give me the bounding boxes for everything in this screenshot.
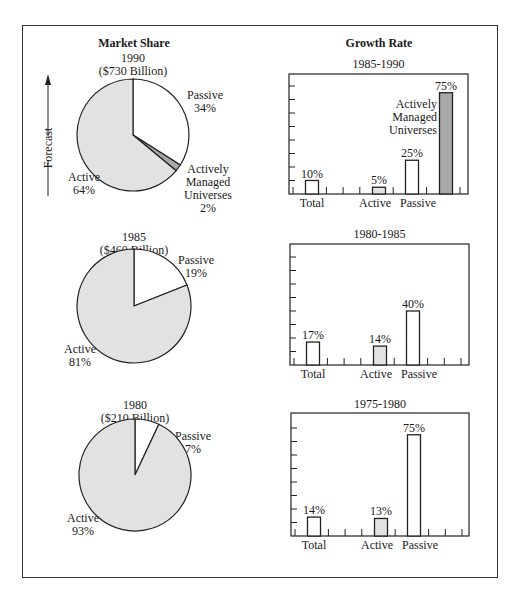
bar-value-label: 75% — [435, 79, 457, 93]
bar-chart-1980-1985: 1980-198517%Total14%Active40%Passive — [290, 227, 469, 381]
bar-total — [307, 342, 320, 365]
pie-label-actively-managed-universes: Universes — [184, 188, 232, 202]
x-category-label: Active — [359, 196, 391, 210]
pie-label-actively-managed-universes: 2% — [200, 201, 216, 215]
bar-value-label: 14% — [369, 332, 391, 346]
bar-active — [373, 187, 386, 194]
pie-label-actively-managed-universes: Managed — [186, 175, 231, 189]
pie-label-passive: Passive — [178, 253, 214, 267]
forecast-label: Forecast — [41, 127, 55, 168]
bar-chart-1985-1990: 1985-199010%Total5%Active25%Passive75%Ac… — [289, 57, 468, 210]
market-share-header: Market Share — [98, 36, 170, 50]
x-category-label: Total — [302, 538, 327, 552]
pie-label-actively-managed-universes: Actively — [187, 162, 228, 176]
pie-label-passive: 19% — [185, 266, 207, 280]
pie-chart-1980: 1980($210 Billion)Passive7%Active93% — [67, 398, 211, 538]
bar-value-label: 10% — [301, 167, 323, 181]
pie-year-title: 1980 — [123, 398, 147, 412]
bar-passive — [406, 160, 419, 194]
x-category-label: Active — [361, 538, 393, 552]
bar-period-title: 1980-1985 — [354, 227, 406, 241]
bar-actively-managed-universes — [440, 93, 453, 194]
pie-chart-1990: 1990($730 Billion)Passive34%ActivelyMana… — [68, 51, 232, 215]
pie-label-passive: Passive — [187, 88, 223, 102]
bar-passive — [407, 311, 420, 365]
bar-annotation: Actively — [396, 97, 437, 111]
bar-total — [308, 517, 321, 536]
pie-total-subtitle: ($730 Billion) — [99, 64, 167, 78]
bar-period-title: 1975-1980 — [354, 397, 406, 411]
pie-chart-1985: 1985($460 Billion)Passive19%Active81% — [64, 230, 214, 369]
bar-period-title: 1985-1990 — [353, 57, 405, 71]
pie-label-active: 64% — [73, 183, 95, 197]
bar-value-label: 40% — [402, 297, 424, 311]
pie-label-active: Active — [68, 170, 100, 184]
x-category-label: Passive — [401, 367, 437, 381]
pie-label-active: 93% — [72, 524, 94, 538]
pie-label-passive: 34% — [194, 101, 216, 115]
bar-value-label: 5% — [371, 173, 387, 187]
pie-label-active: Active — [64, 342, 96, 356]
x-category-label: Passive — [400, 196, 436, 210]
pie-label-active: 81% — [69, 355, 91, 369]
pie-year-title: 1990 — [121, 51, 145, 65]
figure-canvas: Market Share Growth Rate Forecast 1990($… — [0, 0, 517, 594]
bar-value-label: 75% — [403, 421, 425, 435]
pie-label-passive: Passive — [175, 429, 211, 443]
bar-value-label: 13% — [370, 504, 392, 518]
bar-active — [375, 518, 388, 536]
bar-active — [374, 346, 387, 365]
x-category-label: Total — [301, 367, 326, 381]
forecast-arrow: Forecast — [41, 74, 55, 196]
x-category-label: Passive — [402, 538, 438, 552]
pie-year-title: 1985 — [122, 230, 146, 244]
bar-annotation: Universes — [389, 123, 437, 137]
growth-rate-header: Growth Rate — [346, 36, 413, 50]
x-category-label: Active — [360, 367, 392, 381]
pie-label-active: Active — [67, 511, 99, 525]
bar-value-label: 14% — [303, 503, 325, 517]
bar-chart-1975-1980: 1975-198014%Total13%Active75%Passive — [291, 397, 469, 552]
bar-passive — [408, 435, 421, 536]
bar-value-label: 25% — [401, 146, 423, 160]
bar-value-label: 17% — [302, 328, 324, 342]
bar-total — [306, 181, 319, 195]
arrow-up-icon — [45, 74, 51, 85]
x-category-label: Total — [300, 196, 325, 210]
bar-annotation: Managed — [392, 110, 437, 124]
